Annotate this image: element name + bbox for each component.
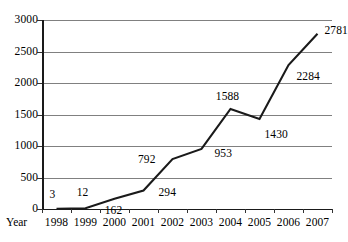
x-tick-mark: [245, 209, 246, 213]
data-point-label: 792: [0, 153, 156, 165]
y-tick-label: 0: [2, 203, 38, 215]
y-axis-tick-labels: 050010001500200025003000: [0, 0, 38, 242]
x-tick-mark: [274, 209, 275, 213]
y-tick-label: 2000: [2, 77, 38, 89]
data-line: [57, 34, 318, 209]
y-tick-label: 1000: [2, 140, 38, 152]
data-point-label: 1430: [265, 128, 288, 140]
data-point-label: 12: [43, 186, 123, 198]
y-tick-label: 2500: [2, 46, 38, 58]
data-point-label: 953: [215, 147, 233, 159]
x-tick-mark: [332, 209, 333, 213]
data-point-label: 2781: [325, 24, 348, 36]
x-tick-mark: [216, 209, 217, 213]
x-tick-mark: [158, 209, 159, 213]
y-axis-line: [42, 20, 44, 210]
x-tick-mark: [42, 209, 43, 213]
x-tick-label: 2007: [298, 216, 338, 228]
x-tick-mark: [71, 209, 72, 213]
x-tick-mark: [187, 209, 188, 213]
y-tick-label: 500: [2, 172, 38, 184]
data-point-label: 1588: [188, 90, 268, 102]
x-tick-mark: [303, 209, 304, 213]
y-tick-label: 1500: [2, 109, 38, 121]
data-line-series: [42, 20, 332, 209]
y-tick-label: 3000: [2, 14, 38, 26]
data-point-label: 162: [74, 204, 154, 216]
data-point-label: 294: [159, 186, 177, 198]
plot-area: [42, 20, 332, 209]
x-axis-tick-labels: 1998199920002001200220032004200520062007: [0, 216, 344, 232]
data-point-label: 2284: [297, 70, 320, 82]
